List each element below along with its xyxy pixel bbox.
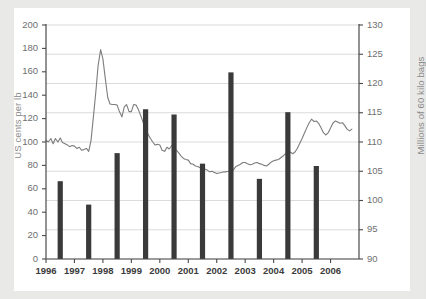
bar-2003	[257, 179, 262, 259]
y-tick-label-left: 120	[12, 112, 38, 123]
bar-2002	[228, 72, 233, 259]
y-tick-label-right: 125	[367, 48, 393, 59]
y-tick-label-right: 130	[367, 19, 393, 30]
y-tick-label-left: 80	[12, 159, 38, 170]
line-series-production	[46, 50, 352, 174]
bar-2004	[285, 112, 290, 259]
y-tick-label-left: 20	[12, 229, 38, 240]
y-tick-label-left: 200	[12, 19, 38, 30]
y-tick-label-right: 100	[367, 194, 393, 205]
y-tick-label-left: 40	[12, 206, 38, 217]
y-axis-label-right: Millions of 60 kilo bags	[415, 41, 426, 171]
bar-1996	[58, 181, 63, 259]
x-tick-label: 2006	[314, 265, 348, 276]
y-tick-label-right: 120	[367, 77, 393, 88]
y-tick-label-right: 105	[367, 165, 393, 176]
y-tick-label-right: 110	[367, 136, 393, 147]
y-tick-label-left: 60	[12, 182, 38, 193]
y-tick-label-left: 140	[12, 89, 38, 100]
y-tick-label-left: 180	[12, 42, 38, 53]
bar-1998	[115, 153, 120, 259]
bar-2005	[314, 166, 319, 259]
y-tick-label-left: 100	[12, 136, 38, 147]
y-tick-label-right: 90	[367, 253, 393, 264]
y-tick-label-left: 160	[12, 65, 38, 76]
y-tick-label-right: 95	[367, 223, 393, 234]
bar-1997	[86, 205, 91, 259]
y-tick-label-right: 115	[367, 106, 393, 117]
y-tick-label-left: 0	[12, 253, 38, 264]
bar-2001	[200, 164, 205, 259]
bar-1999	[143, 109, 148, 259]
bar-2000	[171, 115, 176, 260]
